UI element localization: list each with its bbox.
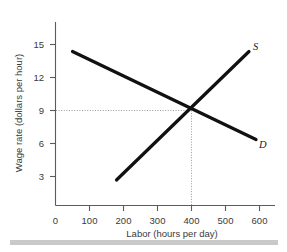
x-tick-label-200: 200: [116, 215, 132, 226]
y-tick-label-12: 12: [33, 72, 44, 83]
chart-canvas: 15 12 9 6 3 0 100 200 300 400 500 600 S …: [0, 0, 287, 252]
x-tick-label-500: 500: [218, 215, 234, 226]
x-tick-label-100: 100: [82, 215, 98, 226]
supply-curve-label: S: [253, 41, 259, 52]
supply-curve: [117, 52, 250, 181]
y-axis-title: Wage rate (dollars per hour): [13, 54, 24, 172]
y-tick-label-6: 6: [39, 138, 44, 149]
y-tick-label-15: 15: [33, 39, 44, 50]
footer-divider-bar: [10, 240, 278, 245]
x-tick-label-300: 300: [150, 215, 166, 226]
y-tick-label-9: 9: [39, 105, 44, 116]
demand-curve: [73, 52, 257, 140]
x-tick-label-400: 400: [184, 215, 200, 226]
labor-market-chart: 15 12 9 6 3 0 100 200 300 400 500 600 S …: [0, 0, 287, 252]
x-axis-title: Labor (hours per day): [126, 228, 217, 239]
y-tick-label-3: 3: [39, 171, 44, 182]
origin-label: 0: [53, 215, 58, 226]
x-tick-label-600: 600: [252, 215, 268, 226]
demand-curve-label: D: [258, 139, 267, 150]
